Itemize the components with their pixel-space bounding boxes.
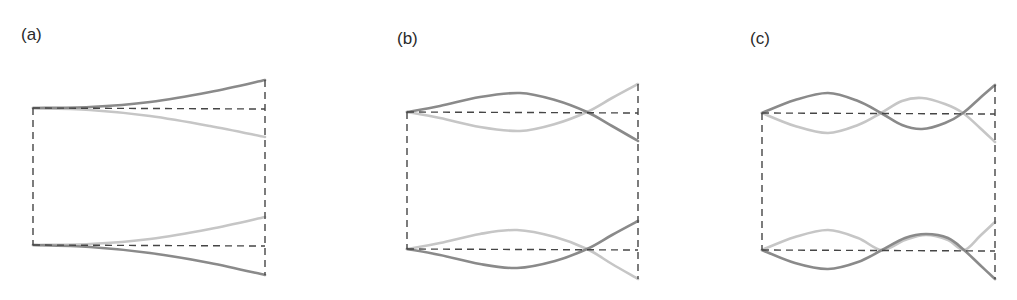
top-light-curve (762, 98, 995, 142)
bottom-dashed-baseline (407, 249, 638, 250)
top-dark-curve (33, 80, 265, 108)
top-light-curve (33, 108, 265, 137)
panel-c (762, 85, 995, 279)
panel-a (33, 80, 265, 275)
panel-label-a: (a) (21, 26, 42, 43)
panel-label-c: (c) (750, 30, 770, 47)
top-dark-curve (407, 93, 638, 141)
top-light-curve (407, 84, 638, 131)
bottom-dark-curve (762, 234, 995, 279)
bottom-dark-curve (33, 245, 265, 275)
top-dark-curve (762, 85, 995, 129)
panel-b (407, 84, 638, 279)
panel-label-b: (b) (397, 30, 418, 47)
top-dashed-baseline (407, 112, 638, 113)
figure-canvas (0, 0, 1017, 300)
bottom-dark-curve (407, 221, 638, 268)
bottom-light-curve (33, 217, 265, 245)
